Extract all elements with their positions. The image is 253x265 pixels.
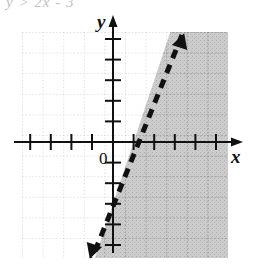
inequality-graph-figure: y > 2x - 3 (0, 0, 253, 265)
x-axis-label: x (230, 146, 241, 167)
y-axis-label: y (95, 11, 106, 32)
graph-canvas: x y 0 (0, 0, 253, 265)
cropped-equation-text: y > 2x - 3 (6, 0, 74, 11)
origin-label: 0 (99, 149, 108, 168)
y-axis-arrowhead (109, 15, 118, 27)
